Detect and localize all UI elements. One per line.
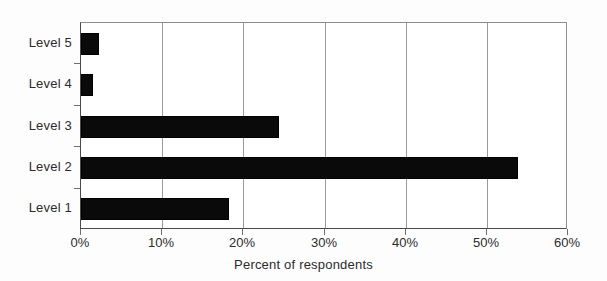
x-axis-tick-label: 60% bbox=[537, 235, 597, 250]
bar-chart-figure: Level 5Level 4Level 3Level 2Level 1 0%10… bbox=[0, 0, 607, 281]
gridline bbox=[406, 23, 407, 228]
gridline bbox=[487, 23, 488, 228]
x-axis-tick-label: 50% bbox=[456, 235, 516, 250]
x-axis-tick-label: 0% bbox=[50, 235, 110, 250]
bar-level-4 bbox=[81, 74, 93, 96]
x-axis-title: Percent of respondents bbox=[0, 257, 607, 272]
bar-level-5 bbox=[81, 33, 99, 55]
y-axis-label-level-2: Level 2 bbox=[0, 159, 72, 174]
bar-level-2 bbox=[81, 157, 518, 179]
x-axis-tick-label: 20% bbox=[212, 235, 272, 250]
x-axis-tick-label: 30% bbox=[294, 235, 354, 250]
bar-level-1 bbox=[81, 198, 229, 220]
x-axis-tick-label: 40% bbox=[375, 235, 435, 250]
y-axis-label-level-4: Level 4 bbox=[0, 76, 72, 91]
plot-area bbox=[80, 22, 567, 229]
y-axis-label-level-1: Level 1 bbox=[0, 200, 72, 215]
y-axis-label-level-3: Level 3 bbox=[0, 118, 72, 133]
x-axis-tick-label: 10% bbox=[131, 235, 191, 250]
bar-level-3 bbox=[81, 116, 279, 138]
x-axis-tick-labels: 0%10%20%30%40%50%60% bbox=[0, 235, 607, 255]
y-axis-label-level-5: Level 5 bbox=[0, 35, 72, 50]
gridline bbox=[325, 23, 326, 228]
